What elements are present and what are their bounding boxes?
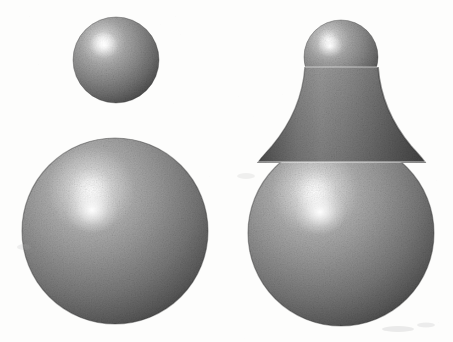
large-sphere-body	[22, 138, 208, 324]
bottom-sphere-body	[248, 140, 434, 326]
blobby-spheres-illustration	[0, 0, 453, 342]
bottom-sphere	[248, 140, 434, 326]
small-sphere-highlight	[89, 32, 119, 58]
bottom-sphere-highlight	[294, 189, 346, 235]
large-sphere-highlight	[66, 187, 118, 233]
figure-canvas: Two separate spheres and the same sphere…	[0, 0, 453, 342]
top-cap-highlight	[317, 35, 343, 57]
large-sphere	[22, 138, 208, 324]
small-sphere	[73, 17, 159, 103]
